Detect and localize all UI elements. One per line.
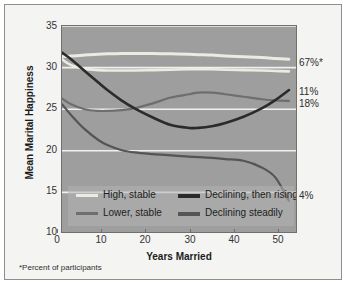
x-tick-20: 20	[130, 235, 160, 245]
x-tickmark-40	[234, 229, 235, 233]
x-tick-10: 10	[86, 235, 116, 245]
x-tick-50: 50	[263, 235, 293, 245]
x-tickmark-50	[278, 229, 279, 233]
x-axis-title: Years Married	[61, 251, 297, 262]
x-tick-30: 30	[175, 235, 205, 245]
x-tick-0: 0	[42, 235, 72, 245]
annotation-18-percent: 18%	[299, 99, 319, 109]
x-tickmark-0	[57, 229, 58, 233]
x-tickmark-20	[145, 229, 146, 233]
figure-frame: 35 30 25 20 15 10 Mean Marital Happiness…	[4, 4, 342, 280]
x-axis-tick-labels: 0 10 20 30 40 50	[5, 5, 348, 286]
annotation-67-percent: 67%*	[299, 58, 323, 68]
x-tickmark-10	[101, 229, 102, 233]
footnote: *Percent of participants	[19, 263, 102, 272]
x-tickmark-30	[190, 229, 191, 233]
x-tick-40: 40	[219, 235, 249, 245]
annotation-11-percent: 11%	[299, 87, 318, 97]
annotation-4-percent: 4%	[299, 191, 313, 201]
